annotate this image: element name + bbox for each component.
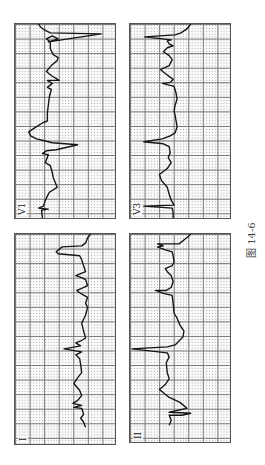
lead-label-i: I [18, 436, 28, 442]
lead-label-v3: V3 [132, 202, 142, 216]
ecg-panel-v1: V1 [14, 23, 116, 219]
ecg-panel-v3: V3 [129, 23, 231, 219]
lead-label-ii: II [133, 431, 143, 440]
ecg-trace-ii [130, 234, 230, 442]
trace-path [29, 24, 102, 218]
trace-path [56, 234, 90, 427]
trace-path [144, 24, 191, 218]
ecg-trace-v3 [130, 24, 230, 218]
ecg-trace-i [15, 234, 115, 444]
ecg-panel-i: I [14, 233, 116, 445]
trace-path [132, 234, 191, 425]
lead-label-v1: V1 [17, 202, 27, 216]
ecg-trace-v1 [15, 24, 115, 218]
figure-caption: 图 14-6 [243, 222, 258, 258]
ecg-panel-ii: II [129, 233, 231, 443]
